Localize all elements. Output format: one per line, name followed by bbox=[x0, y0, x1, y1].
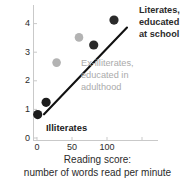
y-axis-ticks bbox=[34, 24, 38, 138]
data-point bbox=[42, 98, 51, 107]
x-axis-caption-line2: number of words read per minute bbox=[0, 167, 195, 180]
y-tick-label-2: 2 bbox=[18, 76, 30, 85]
y-tick-label-4: 4 bbox=[18, 19, 30, 28]
x-tick-label-0: 0 bbox=[27, 143, 47, 152]
y-tick-label-3: 3 bbox=[18, 48, 30, 57]
annotation-literates-line1: Literates, bbox=[139, 5, 180, 17]
annotation-literates-line2: educated bbox=[139, 17, 179, 29]
data-point bbox=[89, 40, 98, 49]
x-tick-label-50: 50 bbox=[62, 143, 82, 152]
scatter-chart-figure: 0 1 2 3 4 0 50 100 Literates, educated a… bbox=[0, 0, 195, 182]
series-ex-illiterates-points bbox=[52, 33, 83, 67]
data-point bbox=[52, 58, 61, 67]
y-tick-label-1: 1 bbox=[18, 105, 30, 114]
annotation-ex-illiterates-line1: Ex-illiterates, bbox=[81, 58, 134, 70]
y-tick-label-0: 0 bbox=[18, 134, 30, 143]
annotation-literates-line3: at school bbox=[139, 29, 179, 41]
annotation-ex-illiterates-line3: adulthood bbox=[81, 82, 121, 94]
annotation-illiterates: Illiterates bbox=[46, 122, 87, 134]
data-point bbox=[109, 16, 118, 25]
x-tick-label-100: 100 bbox=[97, 143, 117, 152]
x-axis-ticks bbox=[37, 137, 142, 141]
annotation-ex-illiterates-line2: educated in bbox=[81, 70, 129, 82]
data-point bbox=[75, 33, 84, 42]
data-point bbox=[33, 110, 42, 119]
x-axis-caption-line1: Reading score: bbox=[0, 154, 195, 167]
